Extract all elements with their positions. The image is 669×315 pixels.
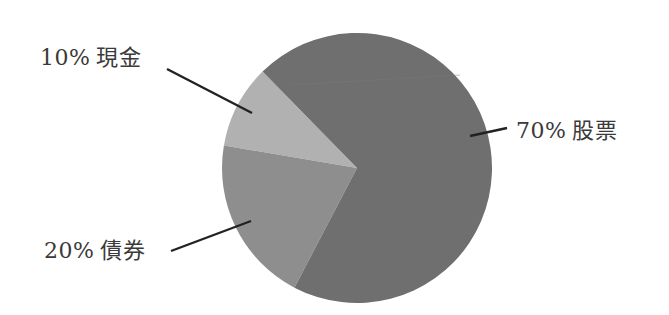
label-bonds-text: 債券 bbox=[100, 238, 145, 263]
leader-line-bonds bbox=[171, 221, 251, 251]
leader-line-cash bbox=[167, 69, 252, 113]
label-bonds-percent: 20% bbox=[44, 238, 94, 263]
label-bonds: 20%債券 bbox=[44, 240, 145, 262]
label-cash: 10%現金 bbox=[40, 47, 141, 69]
label-stocks: 70%股票 bbox=[516, 120, 617, 142]
label-stocks-text: 股票 bbox=[572, 118, 617, 143]
label-cash-percent: 10% bbox=[40, 45, 90, 70]
label-cash-text: 現金 bbox=[96, 45, 141, 70]
pie-slices bbox=[222, 33, 492, 303]
label-stocks-percent: 70% bbox=[516, 118, 566, 143]
